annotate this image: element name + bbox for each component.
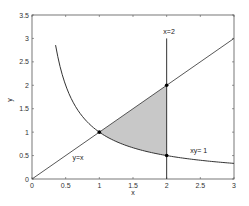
- y-tick-label: 0: [25, 176, 29, 183]
- y-tick-label: 1.5: [19, 105, 29, 112]
- label-x-equals-2: x=2: [163, 28, 175, 35]
- x-tick-label: 2.5: [195, 182, 205, 189]
- y-tick-label: 2.5: [19, 58, 29, 65]
- data-point: [165, 154, 169, 158]
- x-tick-label: 1.5: [128, 182, 138, 189]
- y-axis-label: y: [6, 98, 14, 102]
- x-tick-label: 3: [232, 182, 236, 189]
- x-tick-label: 0: [30, 182, 34, 189]
- label-xy-equals-1: xy= 1: [190, 147, 207, 155]
- y-tick-label: 0.5: [19, 152, 29, 159]
- shaded-region: [99, 85, 166, 155]
- data-point: [98, 130, 102, 134]
- plot-canvas: 00.511.522.5300.511.522.533.5 y=x x=2 xy…: [0, 0, 249, 206]
- x-tick-label: 2: [165, 182, 169, 189]
- x-tick-label: 1: [97, 182, 101, 189]
- x-axis-label: x: [131, 189, 135, 196]
- y-tick-label: 2: [25, 82, 29, 89]
- y-tick-label: 3.5: [19, 12, 29, 19]
- x-tick-label: 0.5: [61, 182, 71, 189]
- y-tick-label: 3: [25, 35, 29, 42]
- axes-box: [32, 15, 234, 179]
- label-y-equals-x: y=x: [72, 154, 84, 162]
- data-point: [165, 83, 169, 87]
- line-y-equals-x: [32, 38, 234, 179]
- y-tick-label: 1: [25, 129, 29, 136]
- axis-ticks: 00.511.522.5300.511.522.533.5: [19, 12, 236, 190]
